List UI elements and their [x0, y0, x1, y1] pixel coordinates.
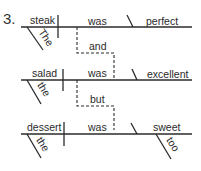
verb-word: was	[87, 121, 107, 133]
sentence-diagram: 3. steak was perfect The and salad was e…	[0, 0, 201, 171]
subject-word: dessert	[27, 121, 62, 133]
complement-word: sweet	[153, 121, 181, 133]
complement-divider	[127, 15, 133, 27]
subject-word: salad	[32, 67, 57, 79]
verb-word: was	[87, 15, 107, 27]
complement-word: perfect	[146, 15, 178, 27]
conjunction-word: but	[90, 93, 105, 105]
complement-divider	[131, 123, 137, 134]
complement-divider	[132, 69, 137, 80]
clause-2: salad was excellent the	[21, 67, 192, 104]
conjunction-word: and	[89, 40, 107, 52]
subject-word: steak	[30, 14, 56, 26]
modifier-word: the	[35, 80, 53, 99]
exercise-number: 3.	[3, 10, 16, 27]
complement-word: excellent	[147, 68, 189, 80]
clause-3: dessert was sweet the too	[21, 121, 192, 159]
verb-word: was	[87, 67, 107, 79]
complement-modifier-word: too	[164, 135, 182, 154]
